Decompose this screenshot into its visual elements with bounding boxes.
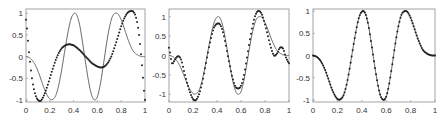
data-point [115, 41, 117, 43]
y-tick-label: -1 [159, 90, 167, 99]
data-point [398, 21, 400, 23]
data-point [250, 33, 252, 35]
data-point [374, 67, 376, 69]
data-point [269, 43, 271, 45]
x-tick-label: 0.6 [92, 106, 104, 115]
data-point [251, 27, 253, 29]
data-point [184, 74, 186, 76]
x-tick-label: 0 [167, 106, 172, 115]
data-point [118, 32, 120, 34]
data-point [30, 70, 32, 72]
x-tick-label: 0.8 [116, 106, 128, 115]
data-point [341, 96, 343, 98]
data-point [173, 60, 175, 62]
data-point [198, 93, 200, 95]
axes-box [169, 9, 289, 102]
data-point [392, 56, 394, 58]
data-point [388, 82, 390, 84]
y-tick-label: -1 [16, 96, 24, 105]
data-point [285, 56, 287, 58]
data-point [387, 88, 389, 90]
data-point [137, 27, 139, 29]
data-point [376, 79, 378, 81]
data-point [28, 51, 30, 53]
data-point [348, 73, 350, 75]
data-point [276, 53, 278, 55]
data-point [207, 51, 209, 53]
data-point [415, 32, 417, 34]
data-point [230, 70, 232, 72]
data-point [31, 77, 33, 79]
data-point [333, 93, 335, 95]
data-point [143, 90, 145, 92]
data-point [253, 19, 255, 21]
data-point [396, 30, 398, 32]
data-point [229, 65, 231, 67]
data-point [170, 58, 172, 60]
data-point [282, 48, 284, 50]
data-point [271, 50, 273, 52]
data-point [386, 92, 388, 94]
y-tick-label: 0.5 [12, 31, 24, 40]
data-point [409, 15, 411, 17]
data-point [352, 49, 354, 51]
data-point [169, 51, 171, 53]
data-point [113, 47, 115, 49]
data-point [364, 12, 366, 14]
data-point [329, 84, 331, 86]
data-point [365, 14, 367, 16]
data-point [220, 25, 222, 27]
data-point [354, 37, 356, 39]
x-tick-label: 0.4 [211, 106, 223, 115]
data-point [122, 20, 124, 22]
data-point [395, 36, 397, 38]
data-point [419, 43, 421, 45]
data-point [358, 17, 360, 19]
data-point [373, 60, 375, 62]
data-point [371, 47, 373, 49]
data-point [372, 53, 374, 55]
data-point [54, 62, 56, 64]
data-point [213, 27, 215, 29]
data-point [399, 17, 401, 19]
data-point [225, 45, 227, 47]
x-tick-label: 0.8 [405, 106, 417, 115]
data-point [246, 56, 248, 58]
data-point [283, 50, 285, 52]
data-point [226, 50, 228, 52]
data-point [183, 70, 185, 72]
data-point [410, 17, 412, 19]
data-point [390, 70, 392, 72]
data-point [266, 31, 268, 33]
data-point [110, 55, 112, 57]
data-point [121, 22, 123, 24]
x-tick-label: 1 [433, 106, 438, 115]
data-point [190, 94, 192, 96]
data-point [227, 55, 229, 57]
data-point [345, 88, 347, 90]
data-point [144, 99, 146, 101]
data-point [322, 64, 324, 66]
data-point [172, 62, 174, 64]
data-point [219, 24, 221, 26]
data-point [41, 99, 43, 101]
x-tick-label: 0 [311, 106, 316, 115]
data-point [397, 25, 399, 27]
data-point [321, 62, 323, 64]
approximation-dots [168, 10, 290, 101]
y-tick-label: -0.5 [9, 74, 23, 83]
x-tick-label: 1 [287, 106, 292, 115]
data-point [58, 52, 60, 54]
data-point [120, 25, 122, 27]
data-point [421, 47, 423, 49]
data-point [228, 60, 230, 62]
data-point [323, 67, 325, 69]
data-point [45, 90, 47, 92]
data-point [35, 95, 37, 97]
y-tick-label: 0 [162, 52, 167, 61]
data-point [221, 28, 223, 30]
y-tick-label: -0.5 [152, 71, 166, 80]
data-point [138, 34, 140, 36]
y-tick-label: 1 [19, 9, 24, 18]
data-point [211, 33, 213, 35]
